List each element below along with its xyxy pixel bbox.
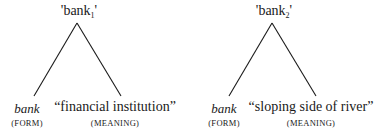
tree1-left-branch xyxy=(34,23,77,96)
tree2-form-label: (FORM) xyxy=(208,118,240,128)
tree1-meaning-word: “financial institution” xyxy=(54,99,176,115)
tree-branches xyxy=(0,0,385,137)
tree1-title: 'bank1' xyxy=(61,3,97,20)
tree2-meaning-word: “sloping side of river” xyxy=(249,99,374,115)
tree1-title-text: 'bank xyxy=(61,3,91,18)
tree2-meaning-label: (MEANING) xyxy=(287,118,336,128)
tree1-form-word: bank xyxy=(14,101,39,117)
tree2-left-branch xyxy=(229,23,272,96)
tree2-form-word: bank xyxy=(211,101,236,117)
tree2-title-text: 'bank xyxy=(256,3,286,18)
tree2-title-close: ' xyxy=(290,3,293,18)
tree1-form-label: (FORM) xyxy=(11,118,43,128)
tree1-meaning-label: (MEANING) xyxy=(91,118,140,128)
tree1-right-branch xyxy=(77,23,121,96)
tree1-title-close: ' xyxy=(95,3,98,18)
tree2-right-branch xyxy=(272,23,316,96)
tree2-title: 'bank2' xyxy=(256,3,292,20)
